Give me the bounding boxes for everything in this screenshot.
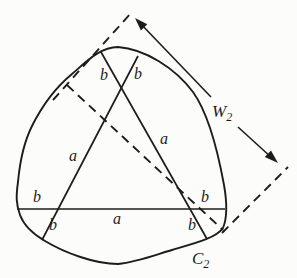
chord-bottom-left-to-top-right <box>42 56 138 240</box>
label-b-horizontal-left: b <box>33 188 41 205</box>
label-b-top-left: b <box>100 66 108 83</box>
label-a-horizontal-middle: a <box>113 210 121 227</box>
width-arrow-lower-shaft <box>238 127 272 158</box>
tangent-line-bottom-right <box>222 167 288 233</box>
label-curve-c2: C2 <box>192 249 209 271</box>
diagram-canvas: b b a a b a b b b W2 C2 <box>0 0 297 278</box>
width-arrow-upper-shaft <box>139 22 211 97</box>
label-a-right-chord: a <box>160 130 168 147</box>
label-a-left-chord: a <box>69 147 77 164</box>
label-width-w2: W2 <box>212 102 232 124</box>
label-b-horizontal-right: b <box>201 188 209 205</box>
label-b-bottom-left: b <box>49 216 57 233</box>
label-b-top-right: b <box>134 65 142 82</box>
constant-width-curve-figure: b b a a b a b b b W2 C2 <box>0 0 297 278</box>
label-b-bottom-right: b <box>188 216 196 233</box>
